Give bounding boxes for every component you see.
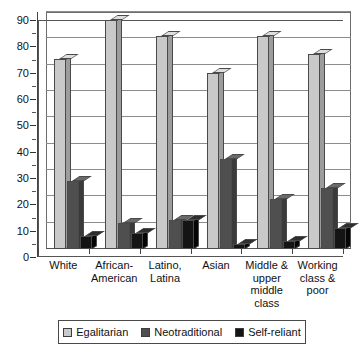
bar-face [80, 236, 92, 249]
bar-face [118, 223, 130, 249]
bar-top [313, 49, 333, 54]
x-tick [292, 249, 293, 254]
y-minor-tick [32, 191, 36, 192]
bar-selfreliant [182, 220, 194, 249]
bar-top [161, 31, 181, 36]
y-major-tick [30, 204, 36, 205]
y-minor-tick [32, 218, 36, 219]
x-axis-label: Middle &uppermiddleclass [241, 259, 292, 309]
x-axis-label-line: class [241, 297, 292, 310]
y-major-tick [30, 125, 36, 126]
legend-label: Egalitarian [76, 327, 128, 338]
bar-top [212, 68, 232, 73]
x-axis-label-line: White [38, 259, 89, 272]
bar-egalitarian [257, 36, 269, 249]
x-axis-label-line: Latina [140, 272, 191, 285]
x-axis-label: Asian [191, 259, 242, 272]
x-tick [38, 249, 39, 254]
x-axis-label: African-American [89, 259, 140, 284]
bar-top [262, 31, 282, 36]
chart-legend: EgalitarianNeotraditionalSelf-reliant [58, 320, 306, 344]
y-tick-label: 60 [17, 94, 29, 105]
y-major-tick [30, 73, 36, 74]
legend-swatch-selfreliant [235, 328, 244, 337]
bar-selfreliant [80, 236, 92, 249]
bar-group [300, 12, 351, 249]
bar-selfreliant [131, 233, 143, 249]
y-minor-tick [32, 33, 36, 34]
y-minor-tick [32, 139, 36, 140]
x-tick [241, 249, 242, 254]
legend-swatch-egalitarian [63, 328, 72, 337]
x-axis-label-line: Latino, [140, 259, 191, 272]
y-minor-tick [32, 165, 36, 166]
bar-face [105, 20, 117, 249]
bars-layer [46, 12, 351, 257]
x-tick [140, 249, 141, 254]
bar-side [232, 156, 237, 249]
x-axis-label-line: middle [241, 284, 292, 297]
bar-face [270, 199, 282, 249]
x-axis-label-line: poor [292, 284, 343, 297]
bar-top [72, 176, 92, 181]
x-tick [89, 249, 90, 254]
bar-face [156, 36, 168, 249]
x-axis-label-line: American [89, 272, 140, 285]
bar-face [131, 233, 143, 249]
bar-selfreliant [334, 228, 346, 249]
bar-top [339, 223, 359, 228]
bar-egalitarian [105, 20, 117, 249]
y-minor-tick [32, 60, 36, 61]
y-tick-label: 90 [17, 15, 29, 26]
bar-top [326, 183, 346, 188]
bar-chart: 0102030405060708090 WhiteAfrican-America… [0, 0, 361, 352]
bar-face [257, 36, 269, 249]
y-major-tick [30, 257, 36, 258]
bar-egalitarian [54, 59, 66, 249]
y-tick-label: 0 [23, 252, 29, 263]
bar-face [283, 241, 295, 249]
bar-egalitarian [156, 36, 168, 249]
legend-swatch-neotraditional [141, 328, 150, 337]
x-axis-label-line: upper [241, 272, 292, 285]
bar-top [225, 154, 245, 159]
y-tick-label: 20 [17, 199, 29, 210]
bar-face [220, 159, 232, 249]
bar-egalitarian [308, 54, 320, 249]
bar-neotraditional [67, 181, 79, 249]
x-tick [343, 249, 344, 254]
x-tick [191, 249, 192, 254]
bar-egalitarian [207, 73, 219, 249]
bar-top [275, 194, 295, 199]
bar-group [97, 12, 148, 249]
bar-face [308, 54, 320, 249]
bar-face [54, 59, 66, 249]
legend-label: Self-reliant [248, 327, 301, 338]
bar-side [117, 17, 122, 249]
bar-neotraditional [270, 199, 282, 249]
plot-area [38, 12, 351, 257]
y-tick-label: 70 [17, 67, 29, 78]
x-axis-label: White [38, 259, 89, 272]
bar-group [249, 12, 300, 249]
x-axis-label-line: Asian [191, 259, 242, 272]
y-major-tick [30, 99, 36, 100]
x-axis-label: Latino,Latina [140, 259, 191, 284]
x-axis-label-line: African- [89, 259, 140, 272]
legend-item: Neotraditional [141, 327, 222, 338]
x-axis-label: Workingclass &poor [292, 259, 343, 297]
bar-group [46, 12, 97, 249]
y-major-tick [30, 178, 36, 179]
y-tick-label: 80 [17, 41, 29, 52]
y-tick-label: 40 [17, 146, 29, 157]
bar-group [148, 12, 199, 249]
bar-neotraditional [220, 159, 232, 249]
bar-group [199, 12, 250, 249]
bar-neotraditional [169, 220, 181, 249]
bar-top [123, 218, 143, 223]
y-tick-label: 50 [17, 120, 29, 131]
bar-side [168, 32, 173, 249]
y-major-tick [30, 46, 36, 47]
bar-selfreliant [283, 241, 295, 249]
legend-label: Neotraditional [154, 327, 222, 338]
